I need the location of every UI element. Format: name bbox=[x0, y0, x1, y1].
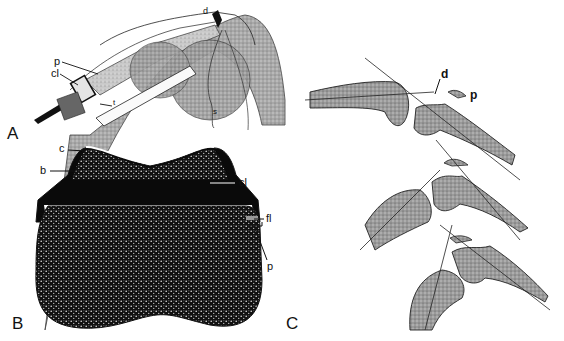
label-b-b: b bbox=[40, 165, 46, 176]
panel-c-letter: C bbox=[286, 314, 298, 334]
label-a-cl: cl bbox=[51, 68, 59, 79]
panel-b-drawing bbox=[36, 147, 267, 329]
label-b-cl: cl bbox=[239, 177, 247, 188]
panel-a-letter: A bbox=[7, 124, 18, 144]
label-c-d: d bbox=[441, 68, 448, 80]
label-c-p: p bbox=[470, 89, 477, 101]
panel-b-letter: B bbox=[12, 314, 23, 334]
panel-c-drawing bbox=[305, 58, 550, 330]
figure-drawing bbox=[0, 0, 564, 341]
label-a-s: s bbox=[213, 108, 217, 116]
label-a-t: t bbox=[113, 99, 115, 107]
label-a-p: p bbox=[54, 56, 60, 67]
label-b-fl: fl bbox=[266, 213, 272, 224]
scientific-figure: A B C p cl t d s c b cl fl p d p bbox=[0, 0, 564, 341]
label-b-p: p bbox=[267, 261, 273, 272]
label-a-d: d bbox=[203, 7, 208, 16]
label-b-c: c bbox=[59, 143, 65, 154]
